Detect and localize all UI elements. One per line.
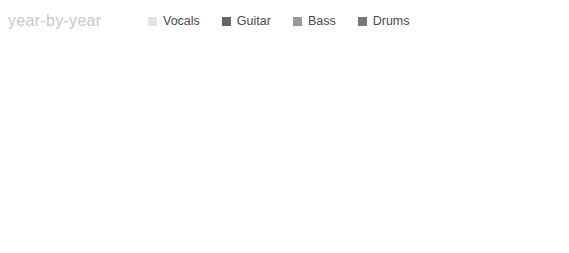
- plot-area: [0, 0, 569, 253]
- year-by-year-chart: year-by-year VocalsGuitarBassDrums: [0, 0, 569, 253]
